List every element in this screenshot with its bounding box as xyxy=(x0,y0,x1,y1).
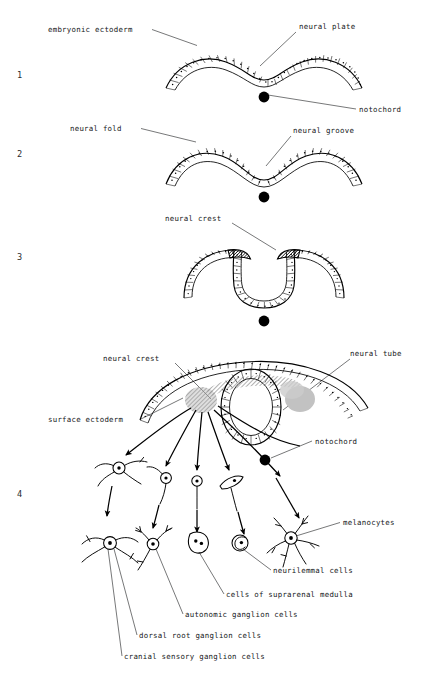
derivative-cranial-sensory-ganglion-cell xyxy=(82,536,138,563)
stage-1-cell-partitions xyxy=(166,55,362,90)
stage-2-cell-nuclei xyxy=(171,150,357,182)
label-neural-crest-4: neural crest xyxy=(103,354,159,363)
migration-arrow-3 xyxy=(197,412,202,470)
secondary-arrow-4 xyxy=(238,512,244,534)
stage-4-surface-ectoderm-arch xyxy=(140,361,368,423)
migrating-cell-a xyxy=(95,457,147,486)
leader-cranial-sensory-ganglion-cells xyxy=(108,549,122,656)
label-autonomic-ganglion-cells: autonomic ganglion cells xyxy=(185,610,298,619)
derivative-neurilemmal-cell xyxy=(232,535,248,551)
derivative-autonomic-ganglion-cell xyxy=(188,532,208,553)
stage-4-crest-shading xyxy=(185,375,315,413)
stage-2-number: 2 xyxy=(17,149,22,159)
label-neural-crest-3: neural crest xyxy=(165,214,221,223)
leader-melanocytes xyxy=(296,523,340,537)
label-neural-fold: neural fold xyxy=(70,124,122,133)
secondary-arrow-5 xyxy=(276,478,299,518)
stage-2-group: 2 neural fold neural groove xyxy=(17,124,362,202)
label-neural-plate: neural plate xyxy=(299,22,356,31)
stage-1-group: 1 embryonic ectoderm neural plate notoch… xyxy=(17,22,401,114)
label-cells-of-suprarenal-medulla: cells of suprarenal medulla xyxy=(226,590,353,599)
derivative-melanocyte xyxy=(267,516,319,567)
leader-cells-of-suprarenal-medulla xyxy=(199,552,224,594)
secondary-migration-arrows xyxy=(107,478,299,534)
stage-3-left-wing xyxy=(184,250,234,298)
notochord-dot-3 xyxy=(259,316,270,327)
migration-arrow-6-tail xyxy=(218,406,300,446)
label-dorsal-root-ganglion-cells: dorsal root ganglion cells xyxy=(139,631,261,640)
leader-neurilemmal-cells xyxy=(243,549,271,570)
diagram-canvas: 1 embryonic ectoderm neural plate notoch… xyxy=(0,0,425,678)
leader-notochord-1 xyxy=(268,95,356,109)
label-melanocytes: melanocytes xyxy=(343,518,395,527)
label-notochord-1: notochord xyxy=(359,105,401,114)
label-neurilemmal-cells: neurilemmal cells xyxy=(273,566,353,575)
migration-arrows xyxy=(126,406,300,476)
secondary-arrow-2 xyxy=(153,505,159,528)
derivative-dorsal-root-ganglion-cell xyxy=(136,526,172,570)
label-surface-ectoderm: surface ectoderm xyxy=(48,415,123,424)
stage-3-number: 3 xyxy=(17,252,22,262)
migration-arrow-1 xyxy=(126,408,191,455)
stage-3-group: 3 neural crest xyxy=(17,214,344,326)
leader-neural-crest-3 xyxy=(232,223,276,250)
neural-crest-figure: 1 embryonic ectoderm neural plate notoch… xyxy=(0,0,425,678)
label-neural-tube: neural tube xyxy=(350,349,402,358)
leader-neural-fold xyxy=(141,129,196,143)
leader-autonomic-ganglion-cells xyxy=(156,549,183,614)
label-cranial-sensory-ganglion-cells: cranial sensory ganglion cells xyxy=(124,652,265,661)
stage-4-arch-nuclei xyxy=(144,362,351,417)
label-neural-groove: neural groove xyxy=(293,126,354,135)
migration-arrow-2 xyxy=(166,410,196,466)
migrating-cell-d xyxy=(220,476,243,511)
stage-4-number: 4 xyxy=(17,489,22,499)
stage-4-group: 4 neural crest neural tube surface ectod… xyxy=(17,349,402,661)
notochord-dot-2 xyxy=(259,192,270,203)
stage-3-crest-left xyxy=(228,250,251,259)
stage-2-ectoderm-band xyxy=(166,148,362,187)
leader-neural-plate xyxy=(260,32,296,66)
leader-embryonic-ectoderm xyxy=(152,30,197,46)
leader-neural-groove xyxy=(266,136,291,166)
label-embryonic-ectoderm: embryonic ectoderm xyxy=(48,25,133,34)
migrating-cell-b xyxy=(147,467,171,504)
label-notochord-4: notochord xyxy=(315,437,357,446)
stage-1-number: 1 xyxy=(17,70,22,80)
migrating-cell-c xyxy=(192,476,202,509)
stage-3-neural-groove xyxy=(233,250,295,308)
notochord-dot-1 xyxy=(259,92,270,103)
stage-3-right-wing xyxy=(294,250,344,298)
secondary-arrow-1 xyxy=(107,486,112,516)
stage-1-ectoderm-band xyxy=(166,55,362,90)
